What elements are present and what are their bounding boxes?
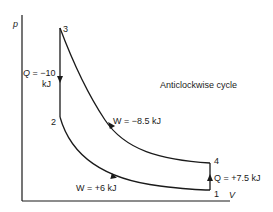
diagram-title: Anticlockwise cycle xyxy=(160,80,237,90)
point-1-label: 1 xyxy=(214,189,219,199)
w-4-3-label: W = −8.5 kJ xyxy=(113,116,161,126)
process-2-1 xyxy=(60,117,210,190)
w-2-1-label: W = +6 kJ xyxy=(76,183,117,193)
y-axis-label: p xyxy=(13,19,18,29)
x-axis-label: V xyxy=(229,190,235,200)
arrow-up-icon xyxy=(207,174,213,181)
q-3-2-unit: kJ xyxy=(42,79,51,89)
arrow-down-icon xyxy=(57,76,63,83)
point-4-label: 4 xyxy=(214,156,219,166)
process-4-3 xyxy=(60,28,210,163)
point-2-label: 2 xyxy=(51,117,56,127)
q-1-4-label: Q = +7.5 kJ xyxy=(214,173,261,183)
q-3-2-label: QQ = −10 = −10 xyxy=(23,68,56,78)
point-3-label: 3 xyxy=(63,24,68,34)
